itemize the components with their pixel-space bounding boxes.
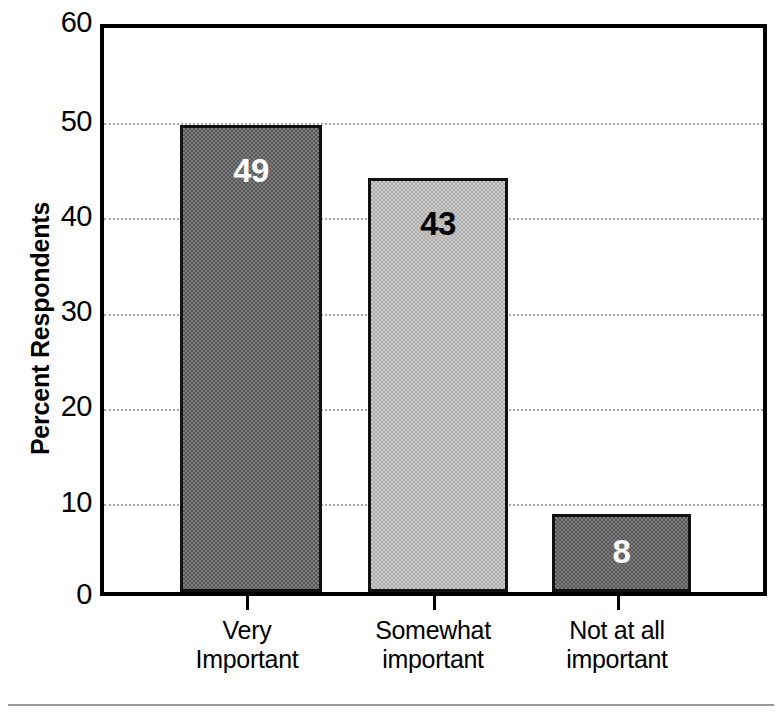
y-axis-tick-labels: 60 50 40 30 20 10 0 [20,0,92,716]
plot-inner: 49 43 8 [104,28,763,592]
x-tick-2 [617,596,620,610]
y-tick-label-40: 40 [30,202,92,231]
bar-somewhat-important[interactable]: 43 [368,178,508,592]
y-tick-label-30: 30 [30,297,92,326]
y-tick-label-50: 50 [30,107,92,136]
x-category-line-1: Not at all [569,616,665,644]
y-tick-label-10: 10 [30,488,92,517]
x-tick-1 [433,596,436,610]
bar-chart-figure: Percent Respondents 60 50 40 30 20 10 0 … [0,0,782,716]
bar-value-label-1: 43 [420,207,456,240]
bar-value-label-0: 49 [233,154,269,187]
y-tick-label-0: 0 [30,580,92,609]
x-category-label-not-at-all-important: Not at all important [517,616,717,674]
x-tick-0 [246,596,249,610]
plot-area: 49 43 8 [100,24,767,596]
bar-value-label-2: 8 [613,535,631,568]
x-category-line-1: Very [223,616,272,644]
bottom-divider [8,704,774,706]
bar-not-at-all-important[interactable]: 8 [552,514,691,592]
x-category-line-2: important [517,645,717,674]
y-tick-label-20: 20 [30,392,92,421]
x-category-line-2: Important [147,645,347,674]
y-tick-label-60: 60 [30,8,92,37]
bar-very-important[interactable]: 49 [180,125,322,592]
x-category-label-very-important: Very Important [147,616,347,674]
x-category-line-2: important [333,645,533,674]
x-category-label-somewhat-important: Somewhat important [333,616,533,674]
x-category-line-1: Somewhat [375,616,491,644]
